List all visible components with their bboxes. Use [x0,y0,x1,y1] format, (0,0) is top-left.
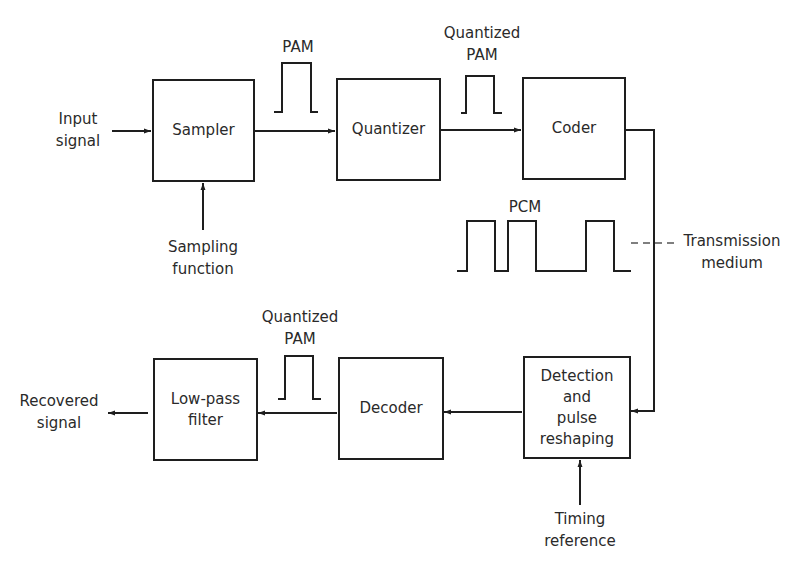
quantizer-label: Quantizer [352,119,425,140]
decoder-label: Decoder [359,398,422,419]
pcm-label: PCM [500,196,550,218]
sampling-function-label: Sampling function [160,236,246,280]
lowpass-filter-label: Low-pass filter [171,389,240,431]
decoder-block: Decoder [338,357,444,460]
sampler-block: Sampler [152,79,255,182]
input-signal-label: Input signal [46,108,110,152]
timing-reference-label: Timing reference [535,508,625,552]
coder-block: Coder [522,77,626,180]
quantized-pam-bottom-label: Quantized PAM [250,306,350,350]
lowpass-filter-block: Low-pass filter [153,358,258,461]
pcm-waveform [457,221,631,271]
quantized-pam-pulse-bottom [278,356,321,399]
detection-block: Detection and pulse reshaping [523,356,631,459]
quantized-pam-pulse-top [461,76,502,113]
quantizer-block: Quantizer [336,78,441,181]
transmission-medium-label: Transmission medium [676,230,788,274]
sampler-label: Sampler [172,120,234,141]
pam-label: PAM [270,36,326,58]
recovered-signal-label: Recovered signal [14,390,104,434]
pam-pulse-waveform [274,63,318,112]
quantized-pam-top-label: Quantized PAM [432,22,532,66]
detection-label: Detection and pulse reshaping [540,366,614,450]
coder-label: Coder [552,118,597,139]
